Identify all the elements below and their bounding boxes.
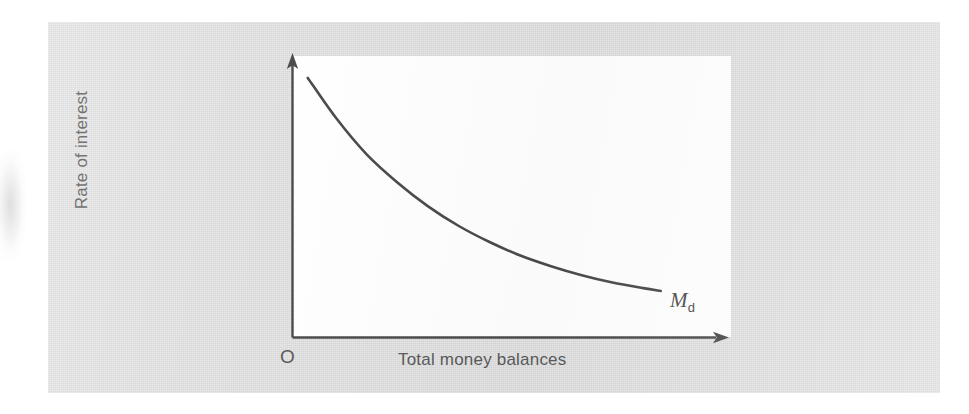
y-axis-label: Rate of interest — [72, 70, 92, 230]
curve-label-md: Md — [670, 288, 695, 315]
x-axis-label: Total money balances — [398, 350, 566, 370]
x-axis — [293, 332, 730, 343]
money-demand-curve-path — [308, 78, 661, 291]
figure-panel: Rate of interest Total money balances O … — [48, 22, 940, 393]
chart-graphic — [48, 22, 940, 393]
scanned-page: Rate of interest Total money balances O … — [0, 0, 969, 414]
curve-label-symbol: M — [670, 288, 688, 312]
origin-label: O — [280, 346, 295, 368]
y-axis — [287, 53, 298, 338]
curve-label-subscript: d — [688, 300, 695, 315]
scan-artifact-smudge — [0, 150, 26, 260]
